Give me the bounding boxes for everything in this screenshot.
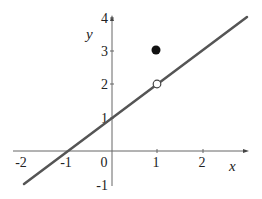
y-axis-label: y [84, 26, 93, 42]
function-graph: -2 -1 0 1 2 -1 1 2 3 4 x y [0, 0, 262, 199]
x-axis-label: x [228, 158, 236, 174]
x-tick-label: 2 [199, 155, 206, 170]
open-point [153, 80, 161, 88]
origin-label: 0 [101, 155, 108, 170]
x-tick-label: 1 [153, 155, 160, 170]
x-tick-label: -1 [60, 155, 72, 170]
filled-point [152, 46, 161, 55]
y-tick-label: 2 [101, 77, 108, 92]
y-tick-label: -1 [96, 178, 108, 193]
y-tick-label: 4 [101, 11, 108, 26]
x-axis-arrow-icon [243, 149, 249, 153]
y-tick-label: 3 [101, 44, 108, 59]
line-series [24, 17, 247, 184]
x-tick-label: -2 [15, 155, 27, 170]
